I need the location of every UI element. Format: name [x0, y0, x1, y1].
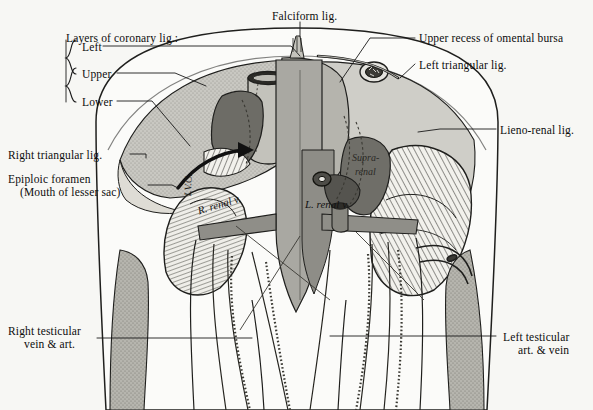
label-left-triangular-lig: Left triangular lig.: [419, 58, 507, 72]
label-left-renal-vein: L. renal v.: [305, 198, 349, 210]
label-coronary-upper: Upper: [82, 67, 112, 81]
label-suprarenal-1: Supra-: [352, 152, 379, 163]
label-ivc-vertical: I.V.C.: [182, 174, 194, 197]
label-coronary-lower: Lower: [82, 95, 113, 109]
label-epiploic-foramen-sub: (Mouth of lesser sac): [20, 185, 121, 199]
label-right-testicular-1: Right testicular: [8, 324, 81, 338]
label-lieno-renal-lig: Lieno-renal lig.: [500, 123, 574, 137]
figure-page: Layers of coronary lig.: Left Upper Lowe…: [0, 0, 593, 410]
label-epiploic-foramen: Epiploic foramen: [8, 172, 91, 186]
label-suprarenal-2: renal: [355, 166, 376, 177]
label-right-triangular-lig: Right triangular lig.: [8, 148, 102, 162]
label-right-testicular-2: vein & art.: [24, 337, 75, 351]
label-left-testicular-1: Left testicular: [503, 330, 569, 344]
label-left-testicular-2: art. & vein: [518, 343, 569, 357]
label-coronary-left: Left: [82, 40, 102, 54]
label-upper-recess-omental-bursa: Upper recess of omental bursa: [419, 31, 563, 45]
coeliac-ring: [313, 172, 331, 186]
label-falciform-lig: Falciform lig.: [272, 9, 337, 23]
